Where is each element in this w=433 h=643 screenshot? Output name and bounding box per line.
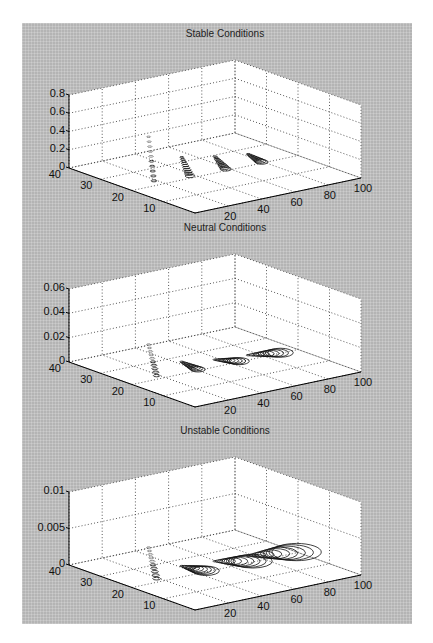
x-tick-label: 80 (324, 189, 336, 201)
y-tick-label: 20 (112, 191, 124, 203)
x-tick-label: 80 (324, 383, 336, 395)
plot-title: Unstable Conditions (180, 425, 270, 436)
y-tick-label: 40 (49, 168, 61, 180)
z-tick-label: 0.005 (37, 521, 65, 533)
y-tick-label: 40 (49, 362, 61, 374)
stable-conditions-plot: Stable Conditions 00.20.40.60.8102030402… (49, 28, 372, 222)
z-tick-label: 0.01 (44, 484, 65, 496)
z-tick-label: 0.6 (50, 105, 65, 117)
z-tick-label: 0.02 (44, 330, 65, 342)
x-tick-label: 20 (224, 404, 236, 416)
z-tick-label: 0.2 (50, 142, 65, 154)
y-tick-label: 30 (80, 576, 92, 588)
unstable-conditions-plot: Unstable Conditions 00.0050.011020304020… (37, 425, 372, 619)
figure-canvas: Stable Conditions 00.20.40.60.8102030402… (22, 23, 412, 624)
axes-box: 00.0050.011020304020406080100 (37, 457, 372, 619)
y-tick-label: 10 (143, 202, 155, 214)
axes-box: 00.20.40.60.81020304020406080100 (49, 60, 372, 222)
plot-title: Neutral Conditions (184, 222, 266, 233)
x-tick-label: 40 (257, 600, 269, 612)
y-tick-label: 10 (143, 396, 155, 408)
x-tick-label: 60 (290, 390, 302, 402)
x-tick-label: 60 (290, 593, 302, 605)
z-tick-label: 0.04 (44, 305, 65, 317)
y-tick-label: 20 (112, 385, 124, 397)
neutral-conditions-plot: Neutral Conditions 00.020.040.0610203040… (44, 222, 373, 416)
axes-box: 00.020.040.061020304020406080100 (44, 254, 373, 416)
figure-background: Stable Conditions 00.20.40.60.8102030402… (22, 23, 412, 624)
y-tick-label: 40 (49, 565, 61, 577)
x-tick-label: 100 (354, 376, 372, 388)
y-tick-label: 20 (112, 588, 124, 600)
x-tick-label: 40 (257, 203, 269, 215)
z-tick-label: 0.4 (50, 124, 65, 136)
plot-title: Stable Conditions (186, 28, 264, 39)
x-tick-label: 80 (324, 586, 336, 598)
x-tick-label: 60 (290, 196, 302, 208)
y-tick-label: 30 (80, 179, 92, 191)
y-tick-label: 30 (80, 373, 92, 385)
x-tick-label: 100 (354, 579, 372, 591)
z-tick-label: 0.06 (44, 281, 65, 293)
x-tick-label: 40 (257, 397, 269, 409)
x-tick-label: 100 (354, 182, 372, 194)
x-tick-label: 20 (224, 210, 236, 222)
y-tick-label: 10 (143, 599, 155, 611)
x-tick-label: 20 (224, 607, 236, 619)
z-tick-label: 0.8 (50, 87, 65, 99)
